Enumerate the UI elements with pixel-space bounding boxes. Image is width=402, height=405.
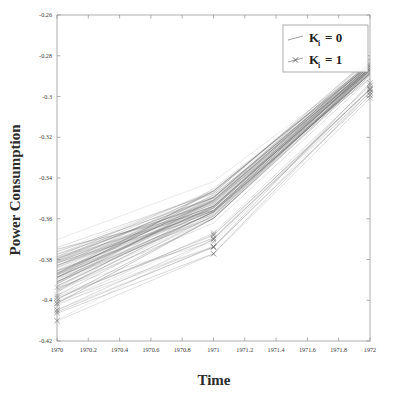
y-axis-title: Power Consumption [7,124,23,256]
legend-label-value-0: = 0 [325,30,342,45]
legend-label-value-1: = 1 [325,52,342,67]
trajectory-line [57,65,370,267]
x-tick-label: 1970.2 [80,346,97,353]
x-tick-label: 1970.6 [142,346,159,353]
power-consumption-chart: 19701970.21970.41970.61970.819711971.219… [0,0,402,405]
y-tick-label: -0.42 [39,337,52,344]
x-tick-label: 1972 [364,346,376,353]
x-tick-label: 1971.8 [330,346,347,353]
y-tick-label: -0.34 [39,174,52,181]
trajectory-group-ki-0 [57,58,370,304]
trajectory-line [57,92,370,313]
x-marker-icon [211,251,216,256]
trajectory-line [57,66,370,274]
trajectory-line [57,63,370,253]
y-tick-label: -0.3 [42,93,52,100]
x-tick-label: 1970 [51,346,63,353]
y-tick-label: -0.32 [39,133,52,140]
x-axis-title: Time [197,372,230,388]
trajectory-line [57,58,370,259]
trajectory-bundles [54,58,372,324]
trajectory-line [57,65,370,254]
y-tick-label: -0.38 [39,256,52,263]
x-tick-label: 1971.4 [268,346,285,353]
x-tick-label: 1971.6 [299,346,316,353]
y-tick-label: -0.4 [42,296,52,303]
figure-canvas: 19701970.21970.41970.61970.819711971.219… [0,0,402,405]
trajectory-line [57,68,370,261]
trajectory-line [57,68,370,263]
trajectory-line [57,64,370,257]
trajectory-line [57,66,370,255]
y-tick-label: -0.28 [39,52,52,59]
x-tick-label: 1971.2 [236,346,253,353]
trajectory-line [57,69,370,251]
y-tick-label: -0.26 [39,11,52,18]
trajectory-line [57,64,370,275]
x-tick-label: 1970.4 [111,346,128,353]
trajectory-line [57,67,370,258]
trajectory-line [57,59,370,248]
x-tick-label: 1971 [207,346,219,353]
trajectory-line [57,63,370,257]
legend-layer: Ki= 0Ki= 1 [283,25,368,72]
trajectory-line [57,68,370,261]
trajectory-line [57,65,370,260]
x-tick-label: 1970.8 [174,346,191,353]
y-tick-label: -0.36 [39,215,52,222]
